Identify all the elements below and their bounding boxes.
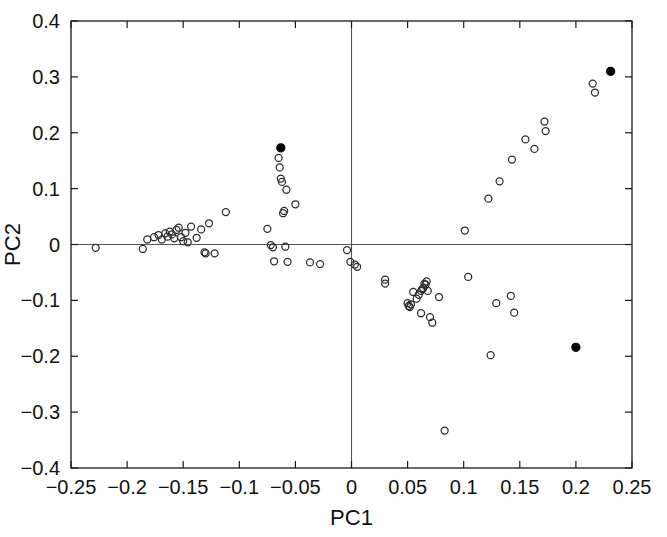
- data-point: [508, 156, 515, 163]
- data-point: [441, 427, 448, 434]
- data-point: [198, 226, 205, 233]
- pca-scatter-chart: −0.25−0.2−0.15−0.1−0.0500.050.10.150.20.…: [0, 0, 667, 537]
- data-point: [589, 80, 596, 87]
- x-tick-label: 0.25: [613, 476, 652, 498]
- data-point: [487, 352, 494, 359]
- data-point-highlighted: [607, 67, 615, 75]
- data-point: [511, 309, 518, 316]
- data-point: [436, 294, 443, 301]
- y-tick-label: 0.1: [32, 178, 60, 200]
- data-point: [418, 310, 425, 317]
- x-tick-label: −0.15: [158, 476, 209, 498]
- y-tick-label: −0.2: [21, 345, 60, 367]
- data-point: [344, 247, 351, 254]
- data-point: [264, 225, 271, 232]
- x-tick-label: −0.25: [46, 476, 97, 498]
- x-tick-label: 0.2: [562, 476, 590, 498]
- data-point: [493, 300, 500, 307]
- y-axis-title: PC2: [0, 223, 25, 266]
- data-point: [591, 89, 598, 96]
- scatter-plot-figure: −0.25−0.2−0.15−0.1−0.0500.050.10.150.20.…: [0, 0, 667, 537]
- x-axis-title: PC1: [330, 505, 373, 530]
- data-point: [284, 258, 291, 265]
- x-tick-label: 0.1: [450, 476, 478, 498]
- data-point: [522, 136, 529, 143]
- data-point: [144, 236, 151, 243]
- data-point: [306, 259, 313, 266]
- x-tick-label: 0: [346, 476, 357, 498]
- data-point: [283, 186, 290, 193]
- data-point: [507, 292, 514, 299]
- data-point: [317, 261, 324, 268]
- series-samples: [92, 80, 598, 434]
- data-point: [531, 145, 538, 152]
- data-point-highlighted: [277, 144, 285, 152]
- y-tick-label: 0: [49, 234, 60, 256]
- data-point: [496, 178, 503, 185]
- y-tick-label: −0.3: [21, 401, 60, 423]
- data-point: [92, 244, 99, 251]
- data-point: [206, 220, 213, 227]
- data-point: [222, 209, 229, 216]
- data-point: [542, 128, 549, 135]
- x-tick-label: −0.2: [107, 476, 146, 498]
- series-highlighted: [277, 67, 615, 351]
- data-point: [461, 227, 468, 234]
- data-point: [275, 154, 282, 161]
- y-tick-label: −0.4: [21, 457, 60, 479]
- y-tick-label: −0.1: [21, 289, 60, 311]
- data-point: [541, 118, 548, 125]
- data-point-highlighted: [572, 343, 580, 351]
- x-tick-label: 0.15: [500, 476, 539, 498]
- data-point: [281, 207, 288, 214]
- data-point: [188, 223, 195, 230]
- y-tick-label: 0.3: [32, 66, 60, 88]
- data-point: [465, 273, 472, 280]
- data-point: [193, 234, 200, 241]
- data-point: [292, 201, 299, 208]
- data-point: [276, 164, 283, 171]
- data-point: [211, 250, 218, 257]
- data-point: [271, 258, 278, 265]
- y-tick-label: 0.2: [32, 122, 60, 144]
- x-tick-label: −0.1: [220, 476, 259, 498]
- data-point: [182, 229, 189, 236]
- y-tick-label: 0.4: [32, 10, 60, 32]
- data-point: [485, 195, 492, 202]
- x-tick-label: −0.05: [270, 476, 321, 498]
- data-point: [139, 245, 146, 252]
- x-tick-label: 0.05: [388, 476, 427, 498]
